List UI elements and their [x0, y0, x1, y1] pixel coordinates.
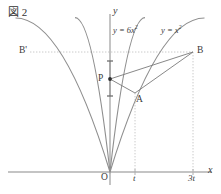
curve-label-narrow-text: y = 6x: [113, 25, 135, 35]
axes: [8, 14, 212, 185]
x-tick-label-3t: 3t: [188, 174, 195, 183]
segment-a-to-b: [135, 52, 193, 93]
triangle-pab: [110, 52, 193, 93]
point-label-b: B: [197, 46, 203, 56]
segment-p-to-b: [110, 52, 193, 79]
point-label-a: A: [136, 95, 143, 105]
x-tick-label-t: t: [133, 174, 136, 183]
point-label-p: P: [98, 74, 103, 84]
x-axis-label: x: [208, 165, 212, 175]
guide-lines: [30, 52, 193, 172]
curve-label-wide-exponent: 2: [179, 24, 182, 30]
y-axis-label: y: [113, 6, 117, 16]
curve-label-wide-text: y = x: [161, 25, 179, 35]
figure-canvas: [0, 0, 221, 194]
point-marker-p: [108, 77, 112, 81]
curve-label-wide: y = x2: [161, 26, 182, 35]
curve-label-narrow: y = 6x2: [113, 26, 138, 35]
origin-label: O: [101, 173, 108, 183]
curve-label-narrow-exponent: 2: [135, 24, 138, 30]
figure-title: 図 2: [8, 7, 27, 18]
point-label-b-prime: B': [19, 46, 27, 56]
